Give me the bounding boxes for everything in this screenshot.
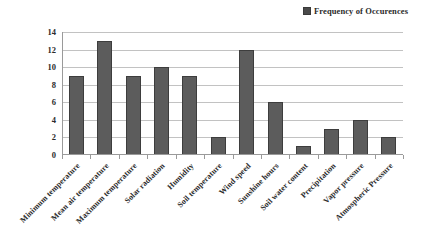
y-axis-tick-label: 14 [32,28,56,37]
y-axis-tick-label: 2 [32,133,56,142]
legend-label: Frequency of Occurences [314,7,408,16]
y-axis-tick-label: 6 [32,98,56,107]
x-axis-tick [403,155,404,159]
x-axis-tick [261,155,262,159]
y-axis-tick-label: 10 [32,63,56,72]
x-axis-tick [375,155,376,159]
x-axis-tick [147,155,148,159]
x-axis-tick [204,155,205,159]
x-axis-tick [62,155,63,159]
x-axis-tick [318,155,319,159]
x-axis-tick [90,155,91,159]
y-axis-tick-label: 0 [32,151,56,160]
x-axis-tick [289,155,290,159]
bar-chart: Frequency of Occurences 14121086420 Mini… [0,0,434,241]
plot-frame [62,32,403,155]
y-axis-tick-label: 4 [32,116,56,125]
chart-legend: Frequency of Occurences [303,7,408,16]
x-axis-tick [176,155,177,159]
y-axis-tick-label: 12 [32,46,56,55]
y-axis-tick-label: 8 [32,81,56,90]
plot-area [62,32,403,155]
x-axis-tick [119,155,120,159]
legend-swatch-icon [303,7,311,15]
x-axis-tick [346,155,347,159]
x-axis-tick [233,155,234,159]
